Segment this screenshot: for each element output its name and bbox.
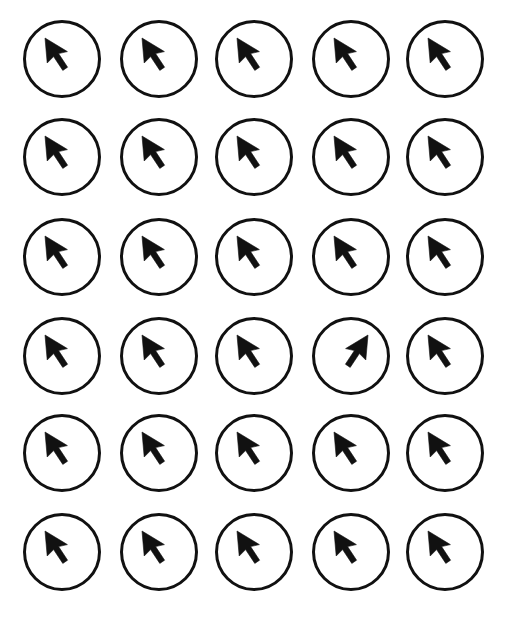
cursor-cell[interactable] — [405, 413, 485, 493]
mouse-cursor-arrow-icon — [142, 531, 165, 563]
cursor-cell[interactable] — [214, 316, 294, 396]
cursor-cell[interactable] — [22, 117, 102, 197]
mouse-cursor-arrow-icon — [428, 236, 451, 268]
mouse-cursor-arrow-icon — [142, 432, 165, 464]
mouse-cursor-arrow-icon — [237, 432, 260, 464]
mouse-cursor-arrow-icon — [142, 236, 165, 268]
cursor-cell[interactable] — [311, 117, 391, 197]
mouse-cursor-arrow-icon — [345, 335, 368, 367]
cursor-cell[interactable] — [22, 512, 102, 592]
cursor-cell[interactable] — [119, 19, 199, 99]
cursor-cell[interactable] — [405, 217, 485, 297]
mouse-cursor-arrow-icon — [334, 136, 357, 168]
cursor-cell[interactable] — [311, 413, 391, 493]
mouse-cursor-arrow-icon — [237, 136, 260, 168]
cursor-cell[interactable] — [311, 19, 391, 99]
cursor-cell[interactable] — [119, 316, 199, 396]
cursor-cell[interactable] — [119, 217, 199, 297]
cursor-cell[interactable] — [119, 512, 199, 592]
mouse-cursor-arrow-icon — [142, 136, 165, 168]
mouse-cursor-arrow-icon — [142, 335, 165, 367]
mouse-cursor-arrow-icon — [45, 236, 68, 268]
mouse-cursor-arrow-icon — [45, 432, 68, 464]
mouse-cursor-arrow-icon — [428, 335, 451, 367]
cursor-cell[interactable] — [405, 512, 485, 592]
mouse-cursor-arrow-icon — [45, 136, 68, 168]
mouse-cursor-arrow-icon — [45, 531, 68, 563]
mouse-cursor-arrow-icon — [334, 432, 357, 464]
mouse-cursor-arrow-icon — [237, 38, 260, 70]
mouse-cursor-arrow-icon — [428, 136, 451, 168]
cursor-cell[interactable] — [311, 217, 391, 297]
mouse-cursor-arrow-icon — [334, 531, 357, 563]
cursor-cell[interactable] — [405, 316, 485, 396]
cursor-cell[interactable] — [22, 316, 102, 396]
cursor-cell[interactable] — [214, 413, 294, 493]
cursor-cell[interactable] — [405, 117, 485, 197]
cursor-cell[interactable] — [22, 217, 102, 297]
cursor-cell[interactable] — [22, 19, 102, 99]
cursor-cell[interactable] — [405, 19, 485, 99]
cursor-cell[interactable] — [22, 413, 102, 493]
mouse-cursor-arrow-icon — [45, 38, 68, 70]
mouse-cursor-arrow-icon — [428, 432, 451, 464]
cursor-cell[interactable] — [214, 19, 294, 99]
mouse-cursor-arrow-icon — [237, 531, 260, 563]
cursor-cell[interactable] — [214, 512, 294, 592]
cursor-cell[interactable] — [214, 117, 294, 197]
mouse-cursor-arrow-icon — [237, 335, 260, 367]
mouse-cursor-arrow-icon — [334, 236, 357, 268]
cursor-cell[interactable] — [214, 217, 294, 297]
cursor-cell[interactable] — [311, 512, 391, 592]
mouse-cursor-arrow-icon — [45, 335, 68, 367]
cursor-cell[interactable] — [119, 117, 199, 197]
mouse-cursor-arrow-icon — [142, 38, 165, 70]
cursor-stimulus-grid — [0, 0, 508, 620]
cursor-cell-odd-one-out[interactable] — [311, 316, 391, 396]
mouse-cursor-arrow-icon — [237, 236, 260, 268]
cursor-cell[interactable] — [119, 413, 199, 493]
mouse-cursor-arrow-icon — [428, 531, 451, 563]
mouse-cursor-arrow-icon — [334, 38, 357, 70]
mouse-cursor-arrow-icon — [428, 38, 451, 70]
